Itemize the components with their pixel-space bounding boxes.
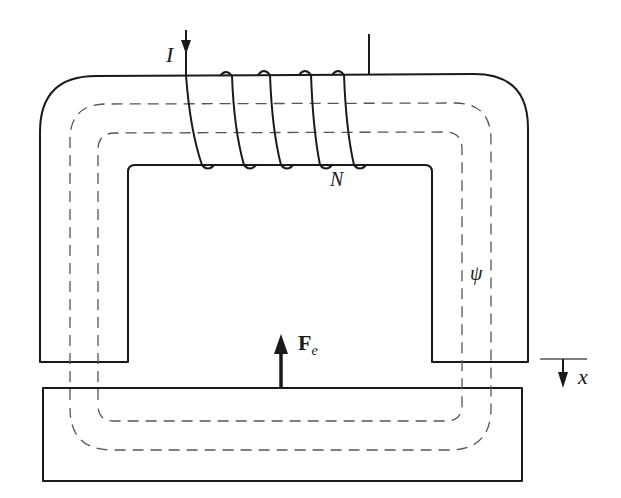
force-label-subscript: e bbox=[311, 343, 317, 358]
turns-label: N bbox=[330, 168, 343, 191]
flux-label: ψ bbox=[470, 262, 482, 285]
core-outline bbox=[40, 74, 528, 362]
displacement-label: x bbox=[578, 364, 588, 390]
magnetic-circuit-diagram bbox=[0, 0, 621, 498]
current-arrow-icon bbox=[181, 40, 191, 54]
force-label: Fe bbox=[298, 330, 318, 359]
armature bbox=[43, 388, 522, 481]
current-label: I bbox=[166, 42, 173, 68]
flux-path-outer bbox=[70, 103, 491, 450]
force-arrow-icon bbox=[274, 334, 288, 388]
coil-winding bbox=[181, 30, 369, 169]
force-label-main: F bbox=[298, 330, 311, 355]
